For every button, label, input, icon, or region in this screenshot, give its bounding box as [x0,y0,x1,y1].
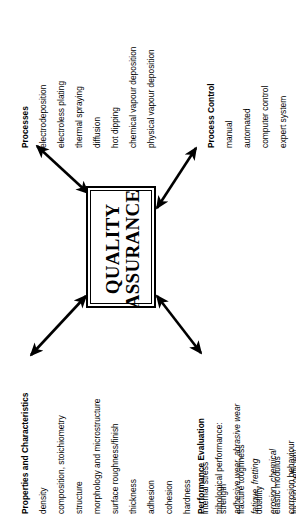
diagram-canvas: QUALITY ASSURANCE Processes electrodepos… [0,0,296,523]
quality-assurance-line2: ASSURANCE [122,190,143,309]
group-processes: Processes electrodeposition electroless … [14,47,158,149]
properties-item: adhesion [146,480,156,514]
group-process-control-heading: Process Control [206,83,216,148]
quality-assurance-box: QUALITY ASSURANCE [86,186,156,308]
performance-item: corrosion behaviour [286,440,296,514]
arrow-properties [31,296,86,355]
performance-item: fatigue, fretting [250,459,260,514]
properties-item: cohesion [164,480,174,514]
quality-assurance-line1: QUALITY [102,204,123,295]
processes-item: hot dipping [110,107,120,148]
performance-item: tribological performance: [214,422,224,514]
arrow-process-control [157,148,196,208]
performance-item: adhesive wear, abrasive wear [232,404,242,514]
quality-assurance-title: QUALITY ASSURANCE [88,188,158,310]
group-processes-heading: Processes [20,106,30,148]
properties-item: morphology and microstructure [92,399,102,514]
group-properties-heading: Properties and Characteristics [20,393,30,515]
processes-item: thermal spraying [74,86,84,148]
process-control-item: automated [242,108,252,148]
process-control-item: manual [224,121,234,148]
properties-item: surface roughness/finish [110,423,120,514]
performance-item: erosion, chemical [268,449,278,514]
processes-item: electroless plating [56,81,66,148]
processes-item: chemical vapour deposition [128,47,138,149]
arrow-performance [157,296,201,353]
process-control-item: computer control [260,86,270,148]
processes-item: physical vapour deposition [146,49,156,148]
process-control-item: expert system [278,96,288,148]
processes-item: diffusion [92,117,102,148]
group-process-control: Process Control manual automated compute… [200,83,290,148]
processes-item: electrodeposition [38,85,48,148]
properties-item: composition, stoichiometry [56,415,66,514]
group-performance-heading: Performance Evaluation [196,418,206,514]
properties-item: density [38,487,48,514]
group-performance-evaluation: Performance Evaluation tribological perf… [190,404,296,514]
arrow-processes [37,146,88,193]
properties-item: structure [74,481,84,514]
properties-item: thickness [128,479,138,514]
